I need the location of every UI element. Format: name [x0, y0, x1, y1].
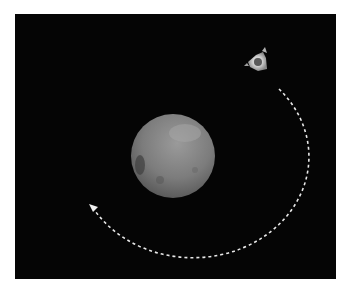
orbit-scene: [0, 0, 353, 295]
spacecraft-icon: [244, 47, 267, 71]
planet: [131, 114, 215, 198]
trajectory-arrowhead-icon: [89, 204, 98, 212]
